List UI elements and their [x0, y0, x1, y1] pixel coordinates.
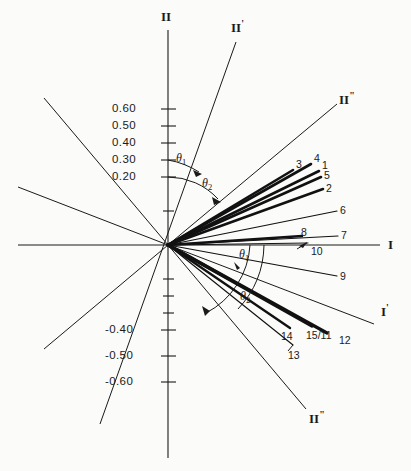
axis-label-II-dprime-text: II — [339, 92, 349, 107]
axis-II-double-prime — [39, 103, 338, 104]
axis-II-double-prime-line — [44, 103, 338, 105]
theta1-upper-label: θ1 — [176, 152, 186, 167]
theta2-upper-sub: 2 — [208, 182, 212, 192]
y-tick-label-neg-0-60: -0.60 — [105, 376, 133, 388]
y-tick-label-0-50: 0.50 — [112, 120, 136, 132]
axis-label-II-double-prime: II" — [339, 91, 355, 106]
y-tick-label-0-40: 0.40 — [112, 137, 136, 149]
ray-label-13: 13 — [288, 350, 300, 361]
ray-label-10: 10 — [311, 246, 323, 257]
ray-4 — [168, 164, 311, 245]
ray-label-2: 2 — [326, 183, 332, 194]
theta1-lower-sub: 1 — [245, 253, 249, 263]
ray-label-5: 5 — [324, 170, 330, 181]
ray-label-8: 8 — [301, 227, 307, 238]
dprime-mark-II: " — [349, 90, 355, 101]
prime-mark-II: ' — [241, 18, 244, 29]
dprime-mark-II-lower: " — [319, 409, 325, 420]
axis-label-II-prime: II' — [231, 19, 244, 34]
y-tick-label-0-30: 0.30 — [112, 154, 136, 166]
y-tick-label-neg-0-40: -0.40 — [105, 324, 133, 336]
theta1-upper-sub: 1 — [182, 157, 186, 167]
rays-upper — [168, 164, 338, 245]
axis-label-II-text: II — [161, 9, 171, 24]
ray-label-9: 9 — [340, 271, 346, 282]
axis-I-prime — [168, 245, 374, 324]
ray-14 — [168, 245, 290, 328]
theta1-lower-label: θ1 — [239, 248, 249, 263]
arrowhead-theta2-upper — [212, 197, 221, 205]
prime-mark-I: ' — [386, 302, 389, 313]
ray-label-7: 7 — [341, 230, 347, 241]
ray-label-6: 6 — [340, 205, 346, 216]
axis-label-II-double-prime-lower: II" — [309, 410, 325, 425]
ray-label-3: 3 — [296, 159, 302, 170]
axis-label-II-dprime-lower-text: II — [309, 411, 319, 426]
axis-label-II: II — [161, 10, 171, 23]
theta2-lower-label: θ2 — [240, 290, 250, 305]
figure-canvas: 0.60 0.50 0.40 0.30 0.20 -0.40 -0.50 -0.… — [0, 0, 411, 471]
ray-5 — [168, 177, 321, 245]
y-tick-label-0-60: 0.60 — [112, 103, 136, 115]
y-tick-label-0-20: 0.20 — [112, 171, 136, 183]
axis-label-II-prime-text: II — [231, 20, 241, 35]
diagram-svg — [0, 0, 411, 471]
theta2-upper-label: θ2 — [202, 177, 212, 192]
axis-I-prime-ext — [18, 187, 168, 245]
axis-label-I-prime: I' — [381, 303, 389, 318]
axis-label-I: I — [388, 238, 393, 251]
ray-label-4: 4 — [314, 153, 320, 164]
theta2-lower-sub: 2 — [246, 295, 250, 305]
arrowhead-theta2-lower — [202, 306, 210, 316]
axis-label-I-text: I — [388, 237, 393, 252]
arrowhead-theta1-lower — [234, 262, 240, 270]
ray-13 — [168, 245, 293, 345]
y-tick-label-neg-0-50: -0.50 — [105, 350, 133, 362]
ray-label-12: 12 — [339, 335, 351, 346]
ray-label-14: 14 — [281, 331, 293, 342]
ray-label-15-11: 15/11 — [306, 330, 332, 341]
axis-II-dprime2-upper-ext — [44, 98, 168, 245]
